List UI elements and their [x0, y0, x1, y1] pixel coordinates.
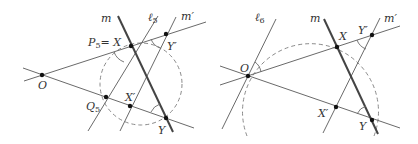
left-label-mprime: m′	[181, 10, 194, 23]
right-angle-mark-o	[255, 62, 261, 72]
left-diagram: m ℓ5 m′ P5= X Y′ O Q5 X′ Y	[23, 10, 206, 137]
left-label-p5-eq-x: P5= X	[87, 36, 122, 50]
right-point-x	[335, 45, 339, 49]
left-label-xprime: X′	[124, 91, 136, 104]
right-diagram: ℓ6 m m′ X Y′ O X′ Y	[220, 11, 400, 136]
left-angle-mark-y	[151, 104, 160, 112]
left-point-y	[164, 116, 168, 120]
left-label-m: m	[101, 12, 111, 25]
left-label-y: Y	[158, 124, 167, 137]
left-angle-mark-x	[114, 52, 124, 62]
right-point-y	[370, 118, 374, 122]
left-label-l5: ℓ5	[148, 11, 158, 25]
left-point-q5	[104, 95, 108, 99]
right-label-o: O	[240, 62, 249, 75]
right-label-y: Y	[359, 120, 368, 133]
left-point-o	[40, 73, 44, 77]
right-label-m: m	[310, 12, 320, 25]
right-label-l6: ℓ6	[255, 11, 265, 25]
right-label-yprime: Y′	[358, 24, 368, 37]
left-dashed-circle	[100, 43, 182, 125]
left-point-x	[129, 44, 133, 48]
right-point-yprime	[370, 33, 374, 37]
geometry-figure: m ℓ5 m′ P5= X Y′ O Q5 X′ Y ℓ6 m	[0, 0, 418, 144]
right-angle-mark-yprime	[357, 40, 366, 49]
left-point-xprime	[128, 104, 132, 108]
right-label-xprime: X′	[317, 107, 329, 120]
right-point-xprime	[334, 105, 338, 109]
left-point-yprime	[164, 32, 168, 36]
right-label-mprime: m′	[384, 12, 397, 25]
left-label-yprime: Y′	[167, 40, 177, 53]
right-label-x: X	[338, 30, 348, 43]
left-line-oxyprime	[24, 22, 206, 81]
left-label-o: O	[38, 79, 47, 92]
left-label-q5: Q5	[86, 100, 100, 114]
